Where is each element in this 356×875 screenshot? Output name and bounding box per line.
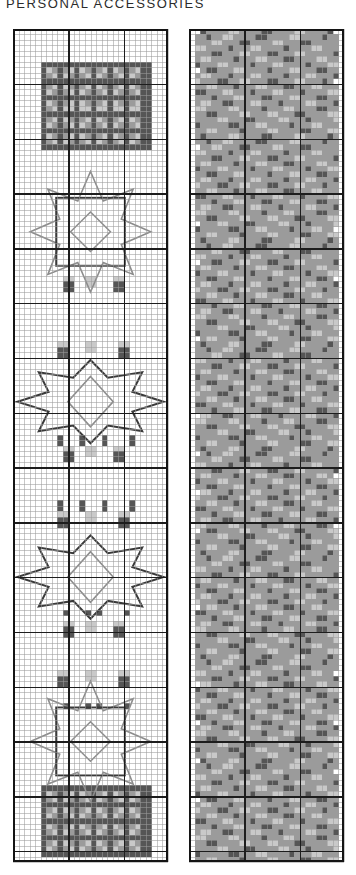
stitch-cell bbox=[63, 522, 69, 528]
stitch-cell bbox=[333, 665, 339, 671]
stitch-cell bbox=[146, 144, 152, 150]
stitch-cell bbox=[91, 451, 97, 457]
stitch-cell bbox=[146, 851, 152, 857]
stitch-cell bbox=[118, 632, 124, 638]
stitch-cell bbox=[333, 221, 339, 227]
stitch-cell bbox=[333, 73, 339, 79]
stitch-cell bbox=[68, 456, 74, 462]
stitch-cell bbox=[68, 632, 74, 638]
stitch-cell bbox=[96, 610, 102, 616]
stitch-cell bbox=[124, 610, 130, 616]
stitch-cell bbox=[333, 763, 339, 769]
stitch-cell bbox=[102, 506, 108, 512]
stitch-cell bbox=[124, 522, 130, 528]
stitch-cell bbox=[333, 467, 339, 473]
stitch-cell bbox=[102, 440, 108, 446]
right-chart[interactable] bbox=[189, 29, 344, 862]
stitch-cell bbox=[124, 703, 130, 709]
stitch-cell bbox=[333, 857, 339, 863]
stitch-cell bbox=[85, 610, 91, 616]
right-chart-cells bbox=[189, 29, 344, 862]
stitch-cell bbox=[68, 287, 74, 293]
stitch-cell bbox=[333, 270, 339, 276]
stitch-cell bbox=[129, 506, 135, 512]
stitch-cell bbox=[124, 681, 130, 687]
stitch-cell bbox=[124, 352, 130, 358]
stitch-cell bbox=[118, 456, 124, 462]
stitch-cell bbox=[333, 517, 339, 523]
stitch-cell bbox=[63, 610, 69, 616]
stitch-cell bbox=[63, 681, 69, 687]
stitch-cell bbox=[85, 703, 91, 709]
stitch-cell bbox=[63, 352, 69, 358]
stitch-cell bbox=[91, 347, 97, 353]
stitch-cell bbox=[91, 626, 97, 632]
stitch-cell bbox=[333, 714, 339, 720]
stitch-cell bbox=[118, 287, 124, 293]
stitch-cell bbox=[96, 703, 102, 709]
stitch-cell bbox=[91, 676, 97, 682]
stitch-cell bbox=[63, 703, 69, 709]
stitch-cell bbox=[129, 440, 135, 446]
left-chart[interactable] bbox=[13, 29, 168, 862]
page-title: PERSONAL ACCESSORIES bbox=[6, 0, 205, 11]
stitch-cell bbox=[91, 517, 97, 523]
left-chart-cells bbox=[13, 29, 168, 862]
stitch-cell bbox=[91, 281, 97, 287]
